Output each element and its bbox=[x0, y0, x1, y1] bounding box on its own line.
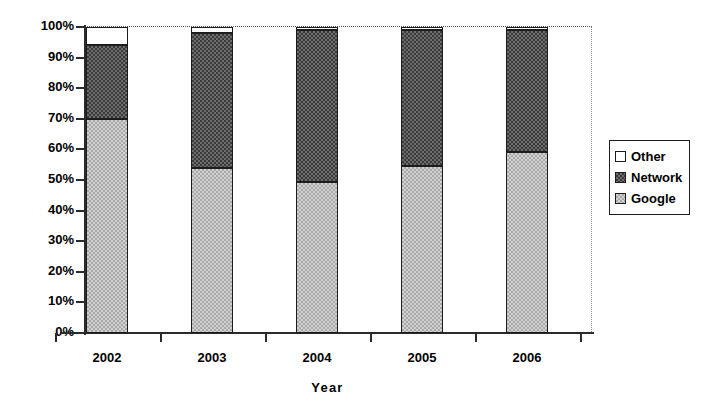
bar-group-2006 bbox=[506, 27, 548, 333]
x-axis-tick-label-2005: 2005 bbox=[382, 350, 462, 365]
legend-item-other: Other bbox=[615, 146, 682, 167]
y-axis-tick-mark bbox=[76, 26, 85, 28]
y-axis-tick-mark bbox=[76, 332, 85, 334]
legend-item-google: Google bbox=[615, 188, 682, 209]
bar-segment-network-2004 bbox=[296, 30, 338, 181]
bar-segment-google-2006 bbox=[506, 152, 548, 333]
legend-label-other: Other bbox=[631, 149, 666, 164]
bar-segment-network-2006 bbox=[506, 30, 548, 152]
y-axis-tick-mark bbox=[76, 87, 85, 89]
y-axis-tick-mark bbox=[76, 301, 85, 303]
legend-swatch-google-icon bbox=[615, 193, 626, 204]
y-axis-tick-mark bbox=[76, 148, 85, 150]
y-axis: 0%10%20%30%40%50%60%70%80%90%100% bbox=[22, 0, 74, 410]
x-axis-tick-label-2004: 2004 bbox=[277, 350, 357, 365]
bar-segment-other-2002 bbox=[86, 27, 128, 45]
y-axis-tick-mark bbox=[76, 210, 85, 212]
bar-segment-google-2005 bbox=[401, 166, 443, 333]
x-axis-tick-mark bbox=[475, 333, 477, 342]
y-axis-tick-label: 50% bbox=[28, 174, 74, 184]
bar-segment-google-2002 bbox=[86, 119, 128, 333]
stacked-bar-chart: 0%10%20%30%40%50%60%70%80%90%100% 200220… bbox=[0, 0, 719, 410]
x-axis-tick-label-2003: 2003 bbox=[172, 350, 252, 365]
x-axis-title: Year bbox=[0, 380, 655, 395]
bar-group-2003 bbox=[191, 27, 233, 333]
bar-group-2002 bbox=[86, 27, 128, 333]
legend-swatch-network-icon bbox=[615, 172, 626, 183]
x-axis-tick-label-2006: 2006 bbox=[487, 350, 567, 365]
y-axis-tick-label: 40% bbox=[28, 205, 74, 215]
y-axis-tick-mark bbox=[76, 118, 85, 120]
legend-swatch-other-icon bbox=[615, 151, 626, 162]
legend-label-google: Google bbox=[631, 191, 676, 206]
bar-segment-google-2003 bbox=[191, 168, 233, 333]
y-axis-tick-label: 100% bbox=[28, 21, 74, 31]
bar-segment-network-2002 bbox=[86, 45, 128, 118]
y-axis-tick-mark bbox=[76, 57, 85, 59]
bar-segment-other-2003 bbox=[191, 27, 233, 33]
bar-segment-network-2005 bbox=[401, 30, 443, 166]
plot-area bbox=[85, 27, 592, 333]
bar-segment-google-2004 bbox=[296, 182, 338, 333]
x-axis-tick-label-2002: 2002 bbox=[67, 350, 147, 365]
x-axis-tick-mark bbox=[55, 333, 57, 342]
y-axis-tick-label: 60% bbox=[28, 143, 74, 153]
y-axis-tick-label: 90% bbox=[28, 52, 74, 62]
y-axis-tick-label: 80% bbox=[28, 82, 74, 92]
bar-segment-other-2006 bbox=[506, 27, 548, 30]
x-axis-tick-mark bbox=[160, 333, 162, 342]
bar-segment-other-2004 bbox=[296, 27, 338, 30]
x-axis-tick-mark bbox=[370, 333, 372, 342]
y-axis-tick-mark bbox=[76, 179, 85, 181]
bar-group-2004 bbox=[296, 27, 338, 333]
y-axis-tick-label: 20% bbox=[28, 266, 74, 276]
y-axis-tick-label: 10% bbox=[28, 296, 74, 306]
x-axis-tick-mark bbox=[265, 333, 267, 342]
bar-segment-other-2005 bbox=[401, 27, 443, 30]
bar-group-2005 bbox=[401, 27, 443, 333]
legend-label-network: Network bbox=[631, 170, 682, 185]
chart-legend: Other Network Google bbox=[609, 140, 690, 215]
y-axis-tick-label: 30% bbox=[28, 235, 74, 245]
y-axis-tick-mark bbox=[76, 240, 85, 242]
y-axis-tick-mark bbox=[76, 271, 85, 273]
bar-segment-network-2003 bbox=[191, 33, 233, 168]
x-axis-tick-mark bbox=[580, 333, 582, 342]
legend-item-network: Network bbox=[615, 167, 682, 188]
y-axis-tick-label: 70% bbox=[28, 113, 74, 123]
